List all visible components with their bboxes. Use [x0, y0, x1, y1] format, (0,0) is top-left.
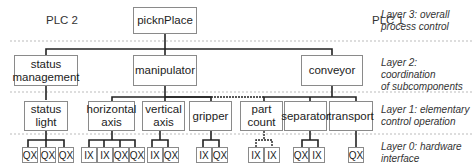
layer-text: process control: [381, 21, 449, 33]
node-vertical-axis: vertical axis: [142, 101, 185, 131]
layer-text: of subcomponents: [381, 81, 474, 93]
node-label: axis: [153, 116, 173, 129]
node-conveyor: conveyor: [301, 55, 363, 86]
node-label: axis: [101, 116, 121, 129]
layer-text: Layer 0: hardware: [381, 141, 462, 153]
plc-2-label: PLC 2: [46, 14, 78, 26]
io-separator-0: QX: [293, 147, 309, 163]
node-label: part: [252, 103, 272, 116]
layer-text: control operation: [381, 116, 469, 128]
io-status-light-1: QX: [40, 147, 56, 163]
node-label: light: [35, 116, 56, 129]
node-transport: transport: [329, 101, 373, 131]
node-picknplace: picknPlace: [133, 7, 197, 34]
node-separator: separator: [284, 101, 327, 131]
io-vertical-axis-1: QX: [163, 147, 179, 163]
node-label: gripper: [193, 110, 229, 123]
layer-text: interface: [381, 153, 462, 165]
node-label: management: [12, 71, 79, 84]
node-label: conveyor: [309, 64, 356, 77]
layer-text: Layer 2: coordination: [381, 57, 474, 81]
node-status-management: status management: [14, 55, 78, 86]
layer-text: Layer 3: overall: [381, 9, 449, 21]
node-status-light: status light: [24, 101, 68, 131]
io-horizontal-axis-3: QX: [129, 147, 145, 163]
layer-text: Layer 1: elementary: [381, 104, 469, 116]
node-label: picknPlace: [137, 14, 193, 27]
node-label: manipulator: [135, 64, 195, 77]
node-gripper: gripper: [189, 101, 232, 131]
layer-1-description: Layer 1: elementary control operation: [381, 104, 469, 128]
io-separator-1: IX: [309, 147, 325, 163]
io-horizontal-axis-0: IX: [81, 147, 97, 163]
io-part-count-1: IX: [264, 147, 280, 163]
node-label: status: [31, 58, 62, 71]
node-label: vertical: [145, 103, 181, 116]
node-label: status: [31, 103, 62, 116]
io-status-light-2: QX: [58, 147, 74, 163]
node-part-count: part count: [240, 101, 283, 131]
layer-3-description: Layer 3: overall process control: [381, 9, 449, 33]
io-vertical-axis-0: IX: [147, 147, 163, 163]
io-status-light-0: QX: [22, 147, 38, 163]
node-label: count: [247, 116, 275, 129]
layer-2-description: Layer 2: coordination of subcomponents: [381, 57, 474, 93]
node-horizontal-axis: horizontal axis: [88, 101, 135, 131]
node-label: horizontal: [87, 103, 137, 116]
io-part-count-0: IX: [248, 147, 264, 163]
node-manipulator: manipulator: [133, 55, 197, 86]
node-label: separator: [281, 110, 330, 123]
io-gripper-1: QX: [212, 147, 228, 163]
io-gripper-0: IX: [196, 147, 212, 163]
layer-0-description: Layer 0: hardware interface: [381, 141, 462, 165]
io-horizontal-axis-2: QX: [113, 147, 129, 163]
io-horizontal-axis-1: IX: [97, 147, 113, 163]
io-transport-0: QX: [348, 147, 364, 163]
node-label: transport: [328, 110, 373, 123]
